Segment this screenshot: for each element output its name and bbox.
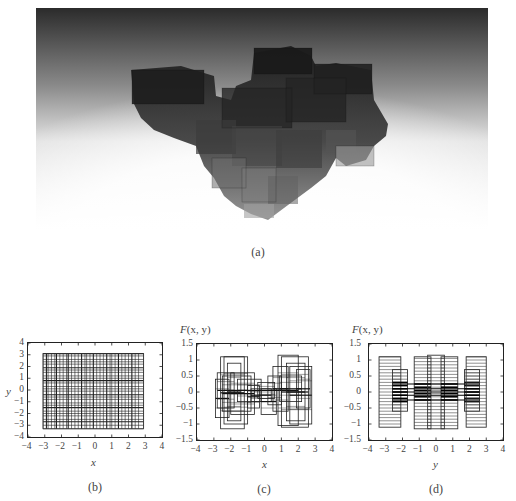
y-tick-label: 2: [19, 361, 24, 371]
x-tick-label: −1: [241, 444, 251, 454]
panel-c-axes: [196, 343, 333, 441]
y-tick-label: 1.5: [349, 338, 361, 348]
panel-c-x-label: x: [262, 458, 267, 470]
panel-c-y-label-args: (x, y): [187, 323, 211, 335]
y-tick-label: −0.5: [176, 402, 193, 412]
x-tick-label: −2: [396, 444, 406, 454]
y-tick-label: 1: [188, 354, 193, 364]
x-tick-label: −3: [379, 444, 389, 454]
plot-content: [216, 355, 312, 429]
y-tick-label: 1: [356, 354, 361, 364]
y-tick-label: 0: [356, 386, 361, 396]
panel-d-y-label: F(x, y): [352, 323, 383, 335]
y-tick-label: 0.5: [181, 370, 193, 380]
y-tick-label: −4: [14, 431, 24, 441]
y-tick-label: −0.5: [344, 402, 361, 412]
panel-d-axes: [368, 343, 504, 441]
panel-b-caption: (b): [75, 480, 115, 495]
x-tick-label: −1: [72, 441, 82, 451]
x-tick-label: 2: [467, 444, 472, 454]
panel-d-y-label-f: F: [352, 323, 359, 335]
x-tick-label: −3: [38, 441, 48, 451]
x-tick-label: −1: [413, 444, 423, 454]
y-tick-label: −1: [351, 418, 361, 428]
panel-c-caption: (c): [244, 482, 284, 497]
panel-d-x-label: y: [433, 458, 438, 470]
y-tick-label: −1: [183, 418, 193, 428]
y-tick-label: 4: [19, 337, 24, 347]
y-tick-label: −1: [14, 396, 24, 406]
x-tick-label: −4: [363, 444, 373, 454]
x-tick-label: 3: [143, 441, 148, 451]
y-tick-label: 1.5: [181, 338, 193, 348]
x-tick-label: −3: [207, 444, 217, 454]
x-tick-label: 1: [279, 444, 284, 454]
y-tick-label: 0.5: [349, 370, 361, 380]
x-tick-label: 3: [484, 444, 489, 454]
y-tick-label: −1.5: [176, 434, 193, 444]
panel-c-plot: F(x, y) 1.510.50−0.5−1−1.5 −4−3−2−101234…: [170, 320, 350, 501]
panel-a-caption: (a): [238, 245, 278, 260]
y-tick-label: −3: [14, 419, 24, 429]
plot-content: [379, 355, 486, 429]
panel-b-axes: [27, 342, 163, 438]
x-tick-label: −2: [224, 444, 234, 454]
x-tick-label: 3: [313, 444, 318, 454]
x-tick-label: 2: [296, 444, 301, 454]
y-tick-label: 0: [19, 384, 24, 394]
x-tick-label: 4: [330, 444, 335, 454]
y-tick-label: 1: [19, 372, 24, 382]
plot-content: [43, 354, 144, 429]
panel-c-y-label: F(x, y): [180, 323, 211, 335]
panel-b-plot: 43210−1−2−3−4 −4−3−2−101234 y x (b): [0, 330, 180, 501]
x-tick-label: 4: [160, 441, 165, 451]
panel-d-y-label-args: (x, y): [359, 323, 383, 335]
x-tick-label: −2: [55, 441, 65, 451]
panel-b-x-label: x: [91, 456, 96, 468]
x-tick-label: 0: [93, 441, 98, 451]
panel-d-plot: F(x, y) 1.510.50−0.5−1−1.5 −4−3−2−101234…: [340, 320, 516, 501]
box-stack-rendering: [36, 8, 488, 230]
panel-a-3d-render: [36, 8, 488, 230]
panel-d-caption: (d): [416, 482, 456, 497]
panel-c-y-label-f: F: [180, 323, 187, 335]
x-tick-label: 1: [109, 441, 114, 451]
y-tick-label: 0: [188, 386, 193, 396]
x-tick-label: 0: [434, 444, 439, 454]
x-tick-label: −4: [22, 441, 32, 451]
y-tick-label: 3: [19, 349, 24, 359]
y-tick-label: −2: [14, 408, 24, 418]
x-tick-label: −4: [191, 444, 201, 454]
x-tick-label: 1: [450, 444, 455, 454]
x-tick-label: 2: [126, 441, 131, 451]
y-tick-label: −1.5: [344, 434, 361, 444]
panel-b-y-label: y: [6, 385, 11, 397]
x-tick-label: 4: [501, 444, 506, 454]
x-tick-label: 0: [262, 444, 267, 454]
